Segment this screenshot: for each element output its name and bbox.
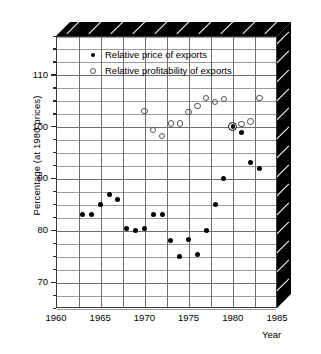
- gridline-vertical: [255, 37, 256, 307]
- data-point-price: [142, 226, 147, 231]
- data-point-profitability: [256, 95, 262, 101]
- y-axis-tick: [53, 139, 56, 140]
- x-axis-tick-label: 1970: [124, 313, 164, 323]
- y-axis-tick: [53, 191, 56, 192]
- data-point-price: [160, 212, 165, 217]
- slab-hatch-line: [154, 22, 171, 35]
- y-axis-tick: [53, 217, 56, 218]
- data-point-profitability: [141, 108, 147, 114]
- y-axis-tick: [53, 100, 56, 101]
- slab-hatch-line: [56, 22, 61, 35]
- gridline-horizontal: [57, 309, 276, 310]
- y-axis-tick: [53, 113, 56, 114]
- y-axis-tick-label: 80: [8, 225, 48, 235]
- y-axis-tick: [53, 295, 56, 296]
- y-axis-tick: [51, 74, 56, 75]
- slab-hatch-line: [277, 221, 290, 238]
- legend-label-price: Relative price of exports: [105, 50, 207, 60]
- legend-item-price: Relative price of exports: [86, 47, 232, 63]
- y-axis-tick: [51, 230, 56, 231]
- slab-hatch-line: [277, 240, 290, 257]
- legend-label-profitability: Relative profitability of exports: [105, 66, 232, 76]
- data-point-price: [177, 254, 182, 259]
- y-axis-tick-label: 90: [8, 173, 48, 183]
- data-point-price: [195, 252, 200, 257]
- x-axis-tick-label: 1960: [36, 313, 76, 323]
- y-axis-tick-label: 70: [8, 277, 48, 287]
- slab-hatch-line: [110, 22, 127, 35]
- slab-hatch-line: [277, 88, 290, 105]
- slab-hatch-line: [220, 22, 237, 35]
- open-circle-icon: [86, 68, 100, 74]
- slab-hatch-line: [277, 69, 290, 86]
- chart-legend: Relative price of exports Relative profi…: [86, 47, 232, 79]
- data-point-price: [213, 202, 218, 207]
- legend-item-profitability: Relative profitability of exports: [86, 63, 232, 79]
- slab-hatch-line: [132, 22, 149, 35]
- y-axis-tick: [53, 269, 56, 270]
- slab-hatch-line: [242, 22, 259, 35]
- data-point-price: [257, 166, 262, 171]
- y-axis-tick: [53, 256, 56, 257]
- y-axis-tick: [51, 282, 56, 283]
- data-point-price: [186, 237, 191, 242]
- chart-3d-top-face: [56, 22, 291, 36]
- data-point-profitability: [177, 120, 183, 126]
- slab-hatch-line: [66, 22, 83, 35]
- slab-hatch-line: [277, 202, 290, 219]
- y-axis-tick: [53, 61, 56, 62]
- slab-hatch-line: [277, 107, 290, 124]
- gridline-vertical: [79, 37, 80, 307]
- slab-hatch-line: [277, 126, 290, 143]
- y-axis-tick: [51, 178, 56, 179]
- data-point-profitability: [168, 120, 174, 126]
- x-axis-title: Year: [262, 329, 281, 340]
- slab-hatch-line: [277, 164, 290, 181]
- data-point-price: [98, 202, 103, 207]
- y-axis-tick: [53, 87, 56, 88]
- y-axis-tick: [53, 152, 56, 153]
- data-point-profitability: [221, 96, 227, 102]
- slab-hatch-line: [264, 22, 281, 35]
- data-point-overlap-core: [231, 124, 236, 129]
- y-axis-tick-label: 110: [8, 70, 48, 80]
- slab-hatch-line: [277, 278, 290, 295]
- chart-3d-right-face: [277, 22, 291, 308]
- x-axis-tick-label: 1975: [169, 313, 209, 323]
- slab-hatch-line: [277, 259, 290, 276]
- y-axis-tick: [53, 165, 56, 166]
- gridline-vertical: [233, 37, 234, 307]
- data-point-profitability: [238, 121, 244, 127]
- y-axis-tick: [53, 48, 56, 49]
- y-axis-tick: [53, 308, 56, 309]
- data-point-profitability: [194, 103, 200, 109]
- slab-hatch-line: [277, 183, 290, 200]
- chart-figure: Percentage (at 1980 prices) 708090100110…: [0, 0, 321, 354]
- data-point-profitability: [247, 118, 253, 124]
- slab-hatch-line: [277, 50, 290, 67]
- y-axis-tick: [53, 36, 56, 37]
- data-point-price: [107, 192, 112, 197]
- slab-hatch-line: [88, 22, 105, 35]
- data-point-price: [124, 226, 129, 231]
- filled-circle-icon: [86, 53, 100, 57]
- slab-hatch-line: [176, 22, 193, 35]
- x-axis-tick-label: 1965: [80, 313, 120, 323]
- y-axis-tick-label: 100: [8, 122, 48, 132]
- x-axis-tick-label: 1985: [257, 313, 297, 323]
- y-axis-tick: [53, 204, 56, 205]
- slab-hatch-line: [198, 22, 215, 35]
- y-axis-tick: [51, 126, 56, 127]
- data-point-price: [151, 212, 156, 217]
- x-axis-tick-label: 1980: [213, 313, 253, 323]
- slab-hatch-line: [277, 297, 290, 308]
- y-axis-tick: [53, 243, 56, 244]
- slab-hatch-line: [277, 145, 290, 162]
